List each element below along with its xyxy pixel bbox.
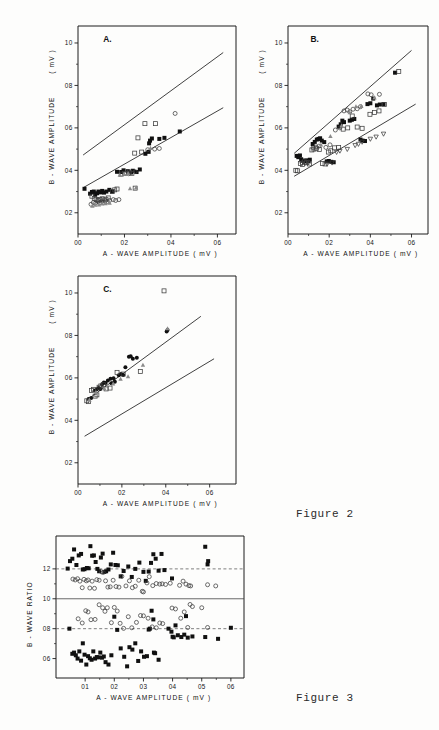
data-point-filled-square: [229, 626, 233, 630]
data-point-open-circle: [179, 616, 183, 620]
data-point-open-circle: [127, 579, 131, 583]
series-filled-marker: [66, 544, 233, 668]
series-filled-circle: [87, 328, 170, 401]
data-point-open-square: [133, 151, 137, 155]
data-point-open-circle: [141, 614, 145, 618]
y-axis-title: B - WAVE AMPLITUDE: [48, 96, 55, 184]
data-point-filled-square: [116, 563, 120, 567]
x-tick-label: 04: [167, 239, 175, 246]
data-point-filled-square: [174, 623, 178, 627]
data-point-filled-square: [216, 637, 220, 641]
y-tick-label: 08: [65, 332, 73, 339]
data-point-filled-square: [378, 103, 382, 107]
data-point-open-square: [397, 69, 401, 73]
axis-frame-top: [288, 26, 428, 234]
figure-page: 020406081000020406A.A - WAVE AMPLITUDE (…: [0, 0, 439, 730]
data-point-open-circle: [89, 618, 93, 622]
data-point-filled-square: [126, 564, 130, 568]
data-point-filled-triangle: [118, 377, 122, 381]
data-point-filled-square: [92, 553, 96, 557]
y-tick-label: 04: [65, 417, 73, 424]
data-point-filled-square: [133, 641, 137, 645]
data-point-filled-triangle: [165, 326, 169, 330]
x-tick-label: 06: [408, 239, 416, 246]
data-point-filled-square: [186, 636, 190, 640]
data-point-filled-square: [102, 654, 106, 658]
x-axis-title: A - WAVE AMPLITUDE ( mV ): [103, 500, 218, 508]
data-point-filled-square: [83, 653, 87, 657]
data-point-filled-square: [203, 545, 207, 549]
data-point-filled-square: [151, 617, 155, 621]
data-point-filled-square: [178, 129, 182, 133]
data-point-filled-square: [139, 649, 143, 653]
x-tick-label: 00: [284, 239, 292, 246]
data-point-filled-square: [137, 561, 141, 565]
x-tick-label: 04: [366, 239, 374, 246]
data-point-filled-square: [79, 659, 83, 663]
data-point-open-square: [162, 289, 166, 293]
data-point-filled-triangle: [354, 104, 358, 108]
panel-ratio-canvas: 06081012010203040506A - WAVE AMPLITUDE (…: [8, 528, 253, 718]
y-axis-unit: ( mV ): [258, 49, 266, 74]
data-point-filled-square: [101, 552, 105, 556]
data-point-open-circle: [80, 586, 84, 590]
data-point-open-circle: [93, 617, 97, 621]
data-point-filled-square: [157, 658, 161, 662]
data-point-filled-square: [74, 563, 78, 567]
y-tick-label: 06: [65, 374, 73, 381]
regression-line-lower-bound: [85, 359, 214, 436]
data-point-open-square: [360, 126, 364, 130]
x-tick-label: 06: [206, 489, 214, 496]
data-point-filled-triangle: [141, 363, 145, 367]
data-point-down-triangle: [374, 135, 378, 139]
data-point-filled-square: [84, 663, 88, 667]
data-point-filled-square: [106, 567, 110, 571]
data-point-filled-square: [125, 664, 129, 668]
y-tick-label: 06: [43, 655, 51, 662]
data-point-open-square: [368, 112, 372, 116]
data-point-open-circle: [328, 143, 332, 147]
data-point-open-square: [143, 122, 147, 126]
data-point-open-circle: [146, 616, 150, 620]
data-point-filled-square: [81, 641, 85, 645]
x-tick-label: 00: [74, 239, 82, 246]
data-point-filled-square: [169, 630, 173, 634]
data-point-open-square: [108, 386, 112, 390]
data-point-filled-square: [109, 653, 113, 657]
data-point-filled-square: [111, 551, 115, 555]
data-point-filled-square: [67, 627, 71, 631]
data-point-filled-square: [141, 570, 145, 574]
data-point-open-circle: [71, 577, 75, 581]
series-down-triangle: [325, 132, 386, 166]
y-tick-label: 02: [275, 209, 283, 216]
panel-c-canvas: 020406081000020406C.A - WAVE AMPLITUDE (…: [18, 268, 248, 523]
data-point-open-circle: [111, 578, 115, 582]
axis-frame: [288, 26, 428, 234]
data-point-filled-square: [190, 634, 194, 638]
data-point-filled-circle: [135, 356, 139, 360]
x-tick-label: 05: [198, 683, 206, 690]
data-point-open-square: [346, 126, 350, 130]
x-tick-label: 06: [227, 683, 235, 690]
panel-letter-label: C.: [103, 284, 111, 294]
data-point-filled-square: [133, 567, 137, 571]
y-axis-title: B - WAVE AMPLITUDE: [258, 96, 265, 184]
data-point-filled-square: [151, 552, 155, 556]
data-point-down-triangle: [345, 147, 349, 151]
data-point-filled-square: [70, 557, 74, 561]
data-point-filled-square: [150, 609, 154, 613]
data-point-filled-square: [91, 649, 95, 653]
data-point-filled-square: [97, 655, 101, 659]
data-point-down-triangle: [368, 137, 372, 141]
x-tick-label: 03: [140, 683, 148, 690]
panel-b-canvas: 020406081000020406B.A - WAVE AMPLITUDE (…: [238, 18, 438, 268]
data-point-open-circle: [173, 111, 177, 115]
data-point-filled-circle: [131, 357, 135, 361]
panel-a: 020406081000020406A.A - WAVE AMPLITUDE (…: [18, 18, 248, 268]
data-point-filled-square: [162, 568, 166, 572]
x-axis-title: A - WAVE AMPLITUDE ( mV ): [103, 250, 218, 258]
x-tick-label: 02: [110, 683, 118, 690]
y-tick-label: 10: [43, 595, 51, 602]
panel-b: 020406081000020406B.A - WAVE AMPLITUDE (…: [238, 18, 438, 268]
data-point-filled-square: [206, 559, 210, 563]
